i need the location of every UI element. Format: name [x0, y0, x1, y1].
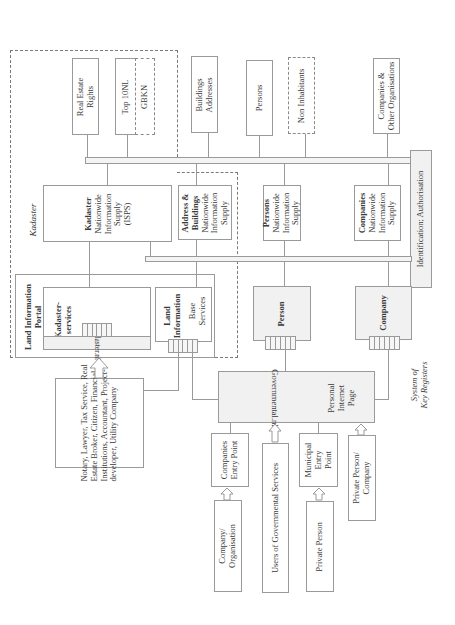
- register-real-estate-rights[interactable]: Real EstateRights: [72, 58, 99, 135]
- upper-bus-bar: [85, 157, 412, 164]
- connector: [388, 262, 389, 286]
- land-information-base-services[interactable]: Land Information Base Services: [155, 287, 212, 342]
- kadaster-group-border-top: [10, 50, 178, 51]
- connector: [192, 399, 218, 400]
- register-buildings-addresses[interactable]: BuildingsAddresses: [191, 56, 218, 133]
- kadaster-services-queue: [82, 323, 112, 337]
- connector: [388, 164, 389, 185]
- kadaster-group-label: Kadaster: [26, 200, 40, 240]
- connector: [388, 350, 389, 400]
- up-arrow-icon: [88, 357, 110, 379]
- private-person-user[interactable]: Private Person: [306, 501, 334, 592]
- connector: [107, 164, 108, 185]
- connector: [230, 423, 231, 433]
- lower-bus-bar: [145, 256, 412, 262]
- kadaster-group-border-right-upper: [177, 50, 178, 162]
- professional-users[interactable]: Notary, Lawyer, Tax Service, Real Estate…: [55, 378, 144, 468]
- connector: [143, 390, 179, 391]
- address-buildings-nationwide-information-supply[interactable]: Address & Buildings Nationwide Informati…: [178, 185, 232, 240]
- kadaster-group-border-left: [10, 50, 11, 358]
- kadaster-nationwide-information-supply[interactable]: Kadaster Nationwide Information Supply (…: [43, 185, 172, 242]
- connector: [387, 134, 388, 157]
- register-top10nl[interactable]: Top 10NL: [115, 58, 136, 135]
- up-arrow-icon: [311, 487, 327, 501]
- companies-entry-point[interactable]: Companies Entry Point: [211, 433, 249, 487]
- kadaster-group-border-right-lower: [237, 172, 238, 358]
- connector: [284, 164, 285, 185]
- connector: [150, 242, 151, 256]
- register-gbkn[interactable]: GBKN: [135, 58, 155, 135]
- connector: [259, 136, 260, 157]
- system-of-key-registers-caption: System of Key Registers: [405, 350, 435, 420]
- connector: [285, 350, 286, 371]
- connector: [196, 240, 197, 256]
- identification-authorisation[interactable]: Identification; Authorisation: [410, 150, 432, 288]
- users-of-governmental-services[interactable]: Users of Governmental Services: [262, 443, 289, 593]
- private-person-company-user[interactable]: Private Person/ Company: [348, 435, 376, 521]
- register-non-inhabitants[interactable]: Non Inhabitants: [288, 57, 315, 134]
- kadaster-group-border-step: [177, 172, 238, 173]
- company-gateway[interactable]: Company: [355, 286, 412, 340]
- connector: [318, 423, 319, 433]
- connector: [375, 399, 389, 400]
- person-queue: [265, 336, 296, 350]
- register-companies-other-organisations[interactable]: Companies &Other Organisations: [373, 58, 400, 134]
- connector: [127, 135, 128, 157]
- up-arrow-icon: [219, 487, 235, 501]
- connector: [196, 164, 197, 185]
- connector: [208, 133, 209, 157]
- companies-nationwide-information-supply[interactable]: Companies Nationwide Information Supply: [354, 185, 401, 241]
- connector: [284, 241, 285, 256]
- company-queue: [369, 336, 400, 350]
- person-gateway[interactable]: Person: [253, 286, 311, 341]
- company-organisation-user[interactable]: Company/ Organisation: [214, 500, 242, 592]
- connector: [178, 353, 179, 390]
- register-persons[interactable]: Persons: [246, 60, 273, 136]
- persons-nationwide-information-supply[interactable]: Persons Nationwide Information Supply: [263, 185, 301, 241]
- connector: [388, 241, 389, 256]
- kadaster-nl-portal[interactable]: Kadaster.nl: [43, 336, 151, 350]
- connector: [87, 135, 88, 157]
- connector: [192, 353, 193, 399]
- land-information-queue: [168, 339, 198, 353]
- municipal-entry-point[interactable]: Municipal Entry Point: [299, 433, 338, 487]
- connector: [305, 134, 306, 157]
- governmental-nl[interactable]: Governmental.nl Personal Internet Page: [218, 371, 375, 423]
- up-arrow-icon: [267, 423, 283, 443]
- connector: [284, 262, 285, 286]
